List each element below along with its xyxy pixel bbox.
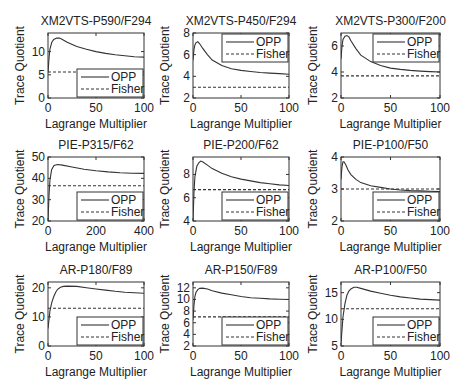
y-tick-label: 10 (32, 45, 46, 59)
subplot-3: XM2VTS-P300/F200050100246Lagrange Multip… (306, 14, 450, 131)
legend: OPPFisher (222, 34, 289, 62)
subplot-1: XM2VTS-P590/F2940501000510Lagrange Multi… (13, 14, 154, 131)
x-tick-label: 100 (430, 224, 450, 238)
y-tick-label: 10 (325, 312, 339, 326)
subplot-7: AR-P180/F8905010001020Lagrange Multiplie… (13, 263, 154, 379)
legend: OPPFisher (77, 192, 144, 220)
subplot-6: PIE-P100/F50050100234Lagrange Multiplier… (306, 138, 450, 254)
x-tick-label: 50 (89, 101, 103, 115)
subplot-title: XM2VTS-P450/F294 (186, 14, 297, 28)
y-axis-label: Trace Quotient (13, 25, 27, 105)
y-axis-label: Trace Quotient (306, 25, 320, 105)
subplot-8: AR-P150/F8905010024681012Lagrange Multip… (158, 263, 299, 379)
y-tick-label: 6 (183, 48, 190, 62)
x-tick-label: 0 (45, 349, 52, 363)
subplot-title: XM2VTS-P300/F200 (335, 14, 446, 28)
y-tick-label: 2 (331, 91, 338, 105)
y-axis-label: Trace Quotient (158, 25, 172, 105)
legend-label: Fisher (256, 205, 289, 219)
y-tick-label: 5 (38, 68, 45, 82)
x-axis-label: Lagrange Multiplier (45, 240, 147, 254)
x-tick-label: 100 (430, 101, 450, 115)
x-tick-label: 0 (338, 101, 345, 115)
legend-label: Fisher (407, 47, 440, 61)
y-axis-label: Trace Quotient (306, 274, 320, 354)
subplot-title: AR-P180/F89 (60, 263, 133, 277)
y-tick-label: 20 (32, 281, 46, 295)
x-axis-label: Lagrange Multiplier (339, 240, 441, 254)
y-tick-label: 4 (331, 65, 338, 79)
x-axis-label: Lagrange Multiplier (190, 365, 292, 379)
subplot-title: AR-P100/F50 (354, 263, 427, 277)
legend-label: Fisher (111, 82, 144, 96)
subplot-4: PIE-P315/F62020040020304050Lagrange Mult… (13, 138, 154, 254)
opp-line (48, 38, 144, 72)
y-axis-label: Trace Quotient (13, 149, 27, 229)
y-axis-label: Trace Quotient (306, 149, 320, 229)
legend: OPPFisher (77, 69, 144, 97)
x-tick-label: 0 (45, 224, 52, 238)
x-tick-label: 50 (234, 101, 248, 115)
y-tick-label: 6 (183, 191, 190, 205)
x-tick-label: 100 (279, 101, 299, 115)
x-tick-label: 100 (279, 224, 299, 238)
x-tick-label: 0 (190, 349, 197, 363)
legend-label: Fisher (111, 205, 144, 219)
subplot-title: XM2VTS-P590/F294 (41, 14, 152, 28)
subplot-title: PIE-P315/F62 (58, 138, 134, 152)
x-axis-label: Lagrange Multiplier (339, 365, 441, 379)
y-tick-label: 15 (325, 286, 339, 300)
x-tick-label: 0 (190, 224, 197, 238)
y-tick-label: 4 (183, 69, 190, 83)
x-tick-label: 0 (338, 349, 345, 363)
y-tick-label: 5 (331, 339, 338, 353)
x-axis-label: Lagrange Multiplier (190, 117, 292, 131)
y-tick-label: 50 (32, 150, 46, 164)
legend: OPPFisher (77, 317, 144, 345)
subplot-9: AR-P100/F5005010051015Lagrange Multiplie… (306, 263, 450, 379)
x-tick-label: 0 (190, 101, 197, 115)
x-tick-label: 0 (338, 224, 345, 238)
x-tick-label: 50 (234, 224, 248, 238)
x-tick-label: 50 (384, 349, 398, 363)
y-tick-label: 8 (183, 167, 190, 181)
y-tick-label: 10 (32, 310, 46, 324)
opp-line (193, 288, 289, 320)
legend: OPPFisher (222, 192, 289, 220)
figure-canvas: XM2VTS-P590/F2940501000510Lagrange Multi… (0, 0, 466, 390)
x-axis-label: Lagrange Multiplier (45, 365, 147, 379)
x-axis-label: Lagrange Multiplier (45, 117, 147, 131)
x-tick-label: 400 (134, 224, 154, 238)
x-tick-label: 100 (279, 349, 299, 363)
opp-line (341, 162, 440, 192)
legend: OPPFisher (222, 317, 289, 345)
legend-label: Fisher (407, 330, 440, 344)
x-tick-label: 200 (86, 224, 106, 238)
y-tick-label: 2 (183, 91, 190, 105)
legend: OPPFisher (373, 192, 440, 220)
y-tick-label: 8 (183, 26, 190, 40)
y-tick-label: 3 (331, 182, 338, 196)
legend-label: Fisher (256, 47, 289, 61)
y-axis-label: Trace Quotient (158, 274, 172, 354)
legend: OPPFisher (373, 317, 440, 345)
legend: OPPFisher (373, 34, 440, 62)
legend-label: Fisher (407, 205, 440, 219)
x-tick-label: 50 (384, 101, 398, 115)
legend-label: Fisher (256, 330, 289, 344)
subplot-5: PIE-P200/F62050100468Lagrange Multiplier… (158, 138, 299, 254)
x-tick-label: 50 (234, 349, 248, 363)
legend-label: Fisher (111, 330, 144, 344)
subplot-2: XM2VTS-P450/F2940501002468Lagrange Multi… (158, 14, 299, 131)
y-tick-label: 12 (177, 281, 191, 295)
y-tick-label: 0 (38, 91, 45, 105)
y-tick-label: 4 (183, 214, 190, 228)
y-tick-label: 30 (32, 193, 46, 207)
x-axis-label: Lagrange Multiplier (339, 117, 441, 131)
y-tick-label: 20 (32, 214, 46, 228)
x-tick-label: 100 (430, 349, 450, 363)
subplot-title: PIE-P100/F50 (353, 138, 429, 152)
x-axis-label: Lagrange Multiplier (190, 240, 292, 254)
x-tick-label: 100 (134, 349, 154, 363)
y-tick-label: 40 (32, 171, 46, 185)
